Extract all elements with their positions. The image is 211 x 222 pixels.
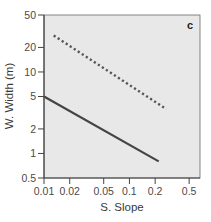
y-axis-title: W. Width (m) <box>3 63 15 130</box>
panel-label: c <box>187 19 193 31</box>
y-tick-label: 2 <box>30 123 36 135</box>
y-tick-label: 0.5 <box>21 172 36 184</box>
x-tick-label: 0.01 <box>34 185 55 197</box>
x-axis-title: S. Slope <box>100 201 143 213</box>
x-tick-label: 0.1 <box>122 185 137 197</box>
chart: 0.5125102050 0.010.020.050.10.20.5 c S. … <box>0 0 211 222</box>
y-tick-label: 10 <box>24 66 36 78</box>
x-tick-label: 0.5 <box>182 185 197 197</box>
y-tick-label: 20 <box>24 41 36 53</box>
x-tick-label: 0.05 <box>93 185 114 197</box>
y-tick-label: 1 <box>30 147 36 159</box>
plot-area <box>44 15 200 178</box>
y-axis-ticks: 0.5125102050 <box>21 9 44 184</box>
x-tick-label: 0.2 <box>148 185 163 197</box>
y-tick-label: 5 <box>30 90 36 102</box>
x-axis-ticks: 0.010.020.050.10.20.5 <box>34 178 197 197</box>
y-tick-label: 50 <box>24 9 36 21</box>
x-tick-label: 0.02 <box>59 185 80 197</box>
plot-background <box>44 15 200 178</box>
